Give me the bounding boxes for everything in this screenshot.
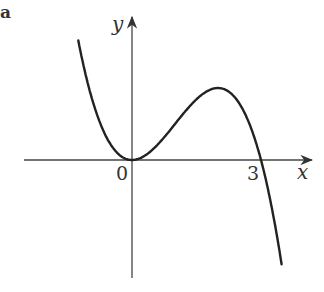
origin-label: 0 bbox=[116, 162, 128, 184]
part-label: a bbox=[0, 2, 11, 22]
root-label: 3 bbox=[247, 162, 259, 184]
graph bbox=[0, 0, 324, 292]
x-axis-label: x bbox=[297, 160, 308, 184]
y-axis-label: y bbox=[112, 12, 123, 36]
cubic-curve bbox=[78, 41, 281, 265]
